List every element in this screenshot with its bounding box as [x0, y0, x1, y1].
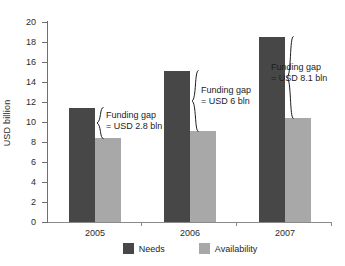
legend-item-needs: Needs [123, 243, 165, 254]
x-axis-line [48, 222, 332, 223]
y-tick-6 [42, 162, 48, 163]
bar-needs-2006 [164, 71, 190, 222]
funding-gap-annotation-2005-line1: Funding gap [106, 110, 162, 121]
y-tick-16 [42, 62, 48, 63]
bar-chart: USD billion 20 18 16 14 12 10 8 6 4 2 0 … [0, 0, 345, 266]
legend-item-availability: Availability [199, 243, 257, 254]
funding-gap-annotation-2007-line2: = USD 8.1 bln [271, 73, 327, 84]
y-tick-label-12: 12 [8, 97, 36, 107]
y-tick-label-20: 20 [8, 17, 36, 27]
y-tick-4 [42, 182, 48, 183]
x-category-label-2007: 2007 [250, 228, 320, 238]
y-tick-20 [42, 22, 48, 23]
funding-gap-annotation-2006-line1: Funding gap [201, 85, 251, 96]
y-tick-18 [42, 42, 48, 43]
bar-availability-2006 [190, 131, 216, 222]
legend-label-needs: Needs [139, 244, 165, 254]
y-tick-label-0: 0 [8, 217, 36, 227]
y-tick-label-8: 8 [8, 137, 36, 147]
x-tick-sep-3 [331, 222, 332, 226]
y-tick-14 [42, 82, 48, 83]
y-tick-12 [42, 102, 48, 103]
y-tick-0 [42, 222, 48, 223]
funding-gap-brace-2006 [191, 70, 200, 132]
legend-label-availability: Availability [215, 244, 257, 254]
y-tick-label-10: 10 [8, 117, 36, 127]
funding-gap-annotation-2005: Funding gap = USD 2.8 bln [106, 110, 162, 132]
funding-gap-annotation-2006: Funding gap = USD 6 bln [201, 85, 251, 107]
funding-gap-annotation-2007: Funding gap = USD 8.1 bln [271, 62, 327, 84]
bar-availability-2007 [285, 118, 311, 222]
bar-needs-2005 [69, 108, 95, 222]
legend-swatch-availability-icon [199, 243, 210, 254]
funding-gap-annotation-2007-line1: Funding gap [271, 62, 327, 73]
y-tick-label-2: 2 [8, 197, 36, 207]
y-tick-10 [42, 122, 48, 123]
y-tick-label-16: 16 [8, 57, 36, 67]
y-tick-label-18: 18 [8, 37, 36, 47]
x-tick-sep-2 [236, 222, 237, 226]
funding-gap-annotation-2005-line2: = USD 2.8 bln [106, 121, 162, 132]
funding-gap-brace-2005 [96, 107, 105, 139]
bar-availability-2005 [95, 138, 121, 222]
y-tick-2 [42, 202, 48, 203]
y-tick-label-4: 4 [8, 177, 36, 187]
legend-swatch-needs-icon [123, 243, 134, 254]
y-tick-label-6: 6 [8, 157, 36, 167]
y-tick-label-14: 14 [8, 77, 36, 87]
x-tick-sep-1 [141, 222, 142, 226]
funding-gap-annotation-2006-line2: = USD 6 bln [201, 96, 251, 107]
y-tick-8 [42, 142, 48, 143]
chart-legend: Needs Availability [48, 243, 332, 254]
x-category-label-2005: 2005 [60, 228, 130, 238]
x-category-label-2006: 2006 [155, 228, 225, 238]
